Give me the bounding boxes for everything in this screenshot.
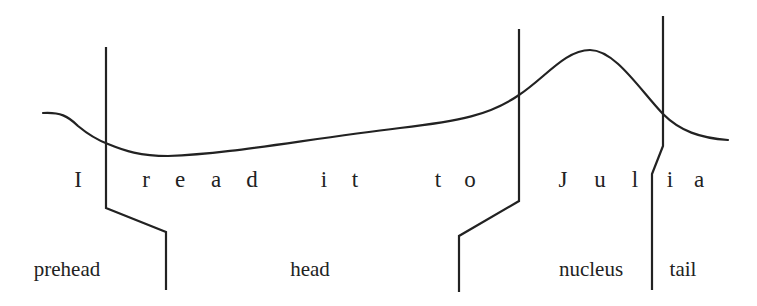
sentence-letter: t [352,168,358,191]
sentence-letter: d [246,168,258,191]
sentence-letter: a [694,168,704,191]
boundary-prehead-head [106,47,166,290]
label-nucleus: nucleus [559,259,623,280]
sentence-letter: r [142,168,150,191]
boundary-nucleus-tail [652,16,663,290]
sentence-letter: i [321,168,327,191]
sentence-letter: i [667,168,673,191]
sentence-letter: a [211,168,221,191]
sentence-letter: e [175,168,185,191]
label-head: head [290,259,330,280]
intonation-diagram [0,0,757,306]
sentence-letter: I [74,168,82,191]
sentence-letter: o [464,168,476,191]
sentence-letter: u [594,168,606,191]
boundary-head-nucleus [459,29,519,292]
pitch-contour-curve [43,50,728,156]
sentence-letter: t [435,168,441,191]
sentence-letter: J [559,168,568,191]
label-tail: tail [670,259,697,280]
sentence-letter: l [632,168,638,191]
label-prehead: prehead [34,259,100,280]
